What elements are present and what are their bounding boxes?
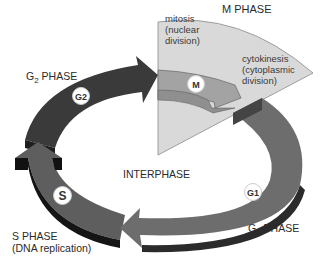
cytokinesis-label-3: division) xyxy=(242,75,277,86)
cell-cycle-diagram: M PHASE mitosis (nuclear division) cytok… xyxy=(0,0,333,267)
mitosis-label-3: division) xyxy=(165,35,200,46)
s-phase-subtitle: (DNA replication) xyxy=(12,242,91,254)
mitosis-label-2: (nuclear xyxy=(165,24,199,35)
s-phase-title: S PHASE xyxy=(12,230,58,242)
mitosis-label-1: mitosis xyxy=(165,13,195,24)
g1-phase-title: G1 PHASE xyxy=(248,222,299,239)
g1-badge: G1 xyxy=(244,183,262,201)
m-phase-title: M PHASE xyxy=(222,3,272,15)
g2-phase-title: G2 PHASE xyxy=(26,70,77,87)
m-badge: M xyxy=(187,75,205,93)
s-badge: S xyxy=(53,186,72,205)
cytokinesis-label-1: cytokinesis xyxy=(242,53,288,64)
cytokinesis-label-2: (cytoplasmic xyxy=(242,64,295,75)
interphase-label: INTERPHASE xyxy=(123,168,190,180)
g2-badge: G2 xyxy=(72,87,90,105)
